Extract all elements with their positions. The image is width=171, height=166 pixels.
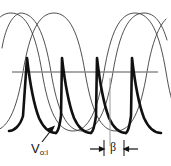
output-pulse-1 — [9, 58, 56, 133]
vo-label-leader-arrow — [42, 127, 54, 143]
output-voltage-subscript: o:i — [40, 148, 48, 157]
beta-angle-label: β — [110, 141, 116, 153]
output-pulse-2 — [56, 58, 91, 133]
output-voltage-symbol: V — [31, 141, 40, 156]
waveform-canvas — [0, 0, 171, 166]
waveform-figure: Vo:i β — [0, 0, 171, 166]
output-voltage-waveform — [9, 58, 161, 133]
output-pulse-4 — [126, 58, 161, 133]
output-voltage-label: Vo:i — [31, 142, 48, 157]
